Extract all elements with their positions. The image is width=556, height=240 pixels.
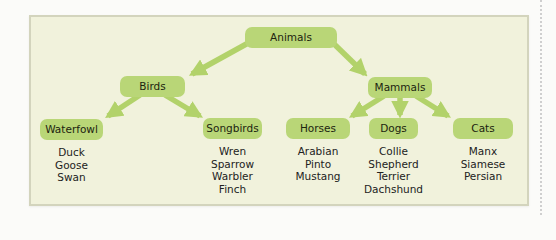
list-item: Goose xyxy=(40,159,103,172)
list-item: Collie xyxy=(359,145,428,158)
waterfowl-list: Duck Goose Swan xyxy=(40,146,103,184)
list-item: Duck xyxy=(40,146,103,159)
list-item: Manx xyxy=(453,145,513,158)
arrow-animals-mammals xyxy=(332,42,365,74)
node-dogs: Dogs xyxy=(369,118,418,139)
list-item: Swan xyxy=(40,171,103,184)
arrow-birds-waterfowl xyxy=(108,95,140,116)
arrow-mammals-cats xyxy=(416,96,448,116)
node-mammals: Mammals xyxy=(368,77,432,98)
dogs-list: Collie Shepherd Terrier Dachshund xyxy=(359,145,428,196)
list-item: Finch xyxy=(203,183,262,196)
songbirds-list: Wren Sparrow Warbler Finch xyxy=(203,145,262,196)
list-item: Warbler xyxy=(203,170,262,183)
list-item: Arabian xyxy=(286,145,350,158)
list-item: Persian xyxy=(453,170,513,183)
node-songbirds: Songbirds xyxy=(203,118,262,139)
arrow-mammals-horses xyxy=(352,96,384,116)
list-item: Siamese xyxy=(453,158,513,171)
node-animals: Animals xyxy=(245,27,337,48)
node-birds: Birds xyxy=(120,76,185,97)
node-horses: Horses xyxy=(286,118,350,139)
list-item: Dachshund xyxy=(359,183,428,196)
list-item: Shepherd xyxy=(359,158,428,171)
cats-list: Manx Siamese Persian xyxy=(453,145,513,183)
list-item: Pinto xyxy=(286,158,350,171)
horses-list: Arabian Pinto Mustang xyxy=(286,145,350,183)
node-cats: Cats xyxy=(453,118,513,139)
arrow-birds-songbirds xyxy=(165,95,200,116)
arrow-animals-birds xyxy=(192,42,250,74)
list-item: Sparrow xyxy=(203,158,262,171)
node-waterfowl: Waterfowl xyxy=(40,119,103,140)
list-item: Mustang xyxy=(286,170,350,183)
list-item: Terrier xyxy=(359,170,428,183)
list-item: Wren xyxy=(203,145,262,158)
